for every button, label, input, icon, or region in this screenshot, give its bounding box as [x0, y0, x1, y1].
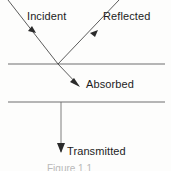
figure-caption: Figure 1.1: [47, 163, 92, 171]
transmitted-label: Transmitted: [67, 145, 126, 157]
reflected-arrowhead-icon: [90, 30, 98, 37]
absorbed-label: Absorbed: [86, 78, 134, 90]
incident-label: Incident: [27, 10, 66, 22]
transmitted-arrowhead-icon: [57, 143, 65, 153]
absorbed-arrowhead-icon: [70, 78, 80, 87]
reflected-label: Reflected: [103, 10, 150, 22]
figure-canvas: Incident Reflected Absorbed Transmitted …: [0, 0, 171, 171]
